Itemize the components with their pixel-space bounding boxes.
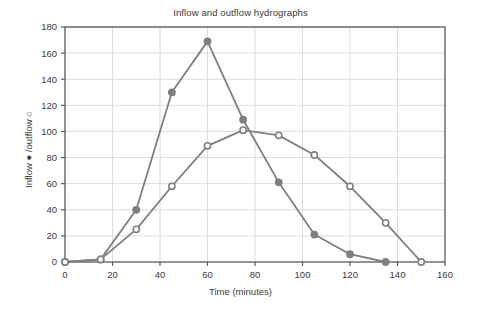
y-tick-label: 140: [41, 74, 57, 85]
y-tick-label: 60: [46, 178, 57, 189]
data-point-outflow: [62, 259, 68, 265]
data-point-inflow: [240, 117, 246, 123]
series-line-inflow: [65, 41, 386, 262]
x-tick-label: 100: [295, 269, 311, 280]
x-tick-label: 120: [342, 269, 358, 280]
data-point-inflow: [311, 231, 317, 237]
y-tick-label: 120: [41, 100, 57, 111]
y-tick-label: 180: [41, 21, 57, 32]
y-tick-label: 20: [46, 230, 57, 241]
x-tick-label: 40: [155, 269, 166, 280]
y-tick-label: 0: [52, 256, 57, 267]
data-point-outflow: [383, 220, 389, 226]
data-point-inflow: [347, 251, 353, 257]
y-tick-label: 40: [46, 204, 57, 215]
data-point-inflow: [383, 259, 389, 265]
x-tick-label: 140: [390, 269, 406, 280]
hydrograph-figure: Inflow and outflow hydrographs Inflow ● …: [0, 0, 481, 310]
data-point-inflow: [204, 38, 210, 44]
data-point-outflow: [204, 143, 210, 149]
y-tick-label: 160: [41, 48, 57, 59]
data-point-outflow: [240, 127, 246, 133]
axis-tick-labels: 0204060801001201401600204060801001201401…: [41, 21, 453, 280]
data-point-outflow: [133, 226, 139, 232]
data-point-outflow: [169, 183, 175, 189]
data-point-inflow: [169, 89, 175, 95]
x-tick-label: 80: [250, 269, 261, 280]
x-tick-label: 160: [437, 269, 453, 280]
y-tick-label: 80: [46, 152, 57, 163]
x-tick-label: 20: [107, 269, 118, 280]
data-point-outflow: [418, 259, 424, 265]
data-point-outflow: [347, 183, 353, 189]
x-tick-label: 60: [202, 269, 213, 280]
y-tick-label: 100: [41, 126, 57, 137]
series-markers: [62, 38, 424, 265]
data-point-inflow: [276, 179, 282, 185]
data-point-inflow: [133, 207, 139, 213]
axis-ticks: [61, 27, 445, 266]
series-line-outflow: [65, 130, 421, 262]
plot-area: 0204060801001201401600204060801001201401…: [0, 0, 481, 310]
data-point-outflow: [311, 152, 317, 158]
x-tick-label: 0: [62, 269, 67, 280]
data-point-outflow: [276, 132, 282, 138]
series-lines: [65, 41, 421, 262]
data-point-outflow: [98, 256, 104, 262]
